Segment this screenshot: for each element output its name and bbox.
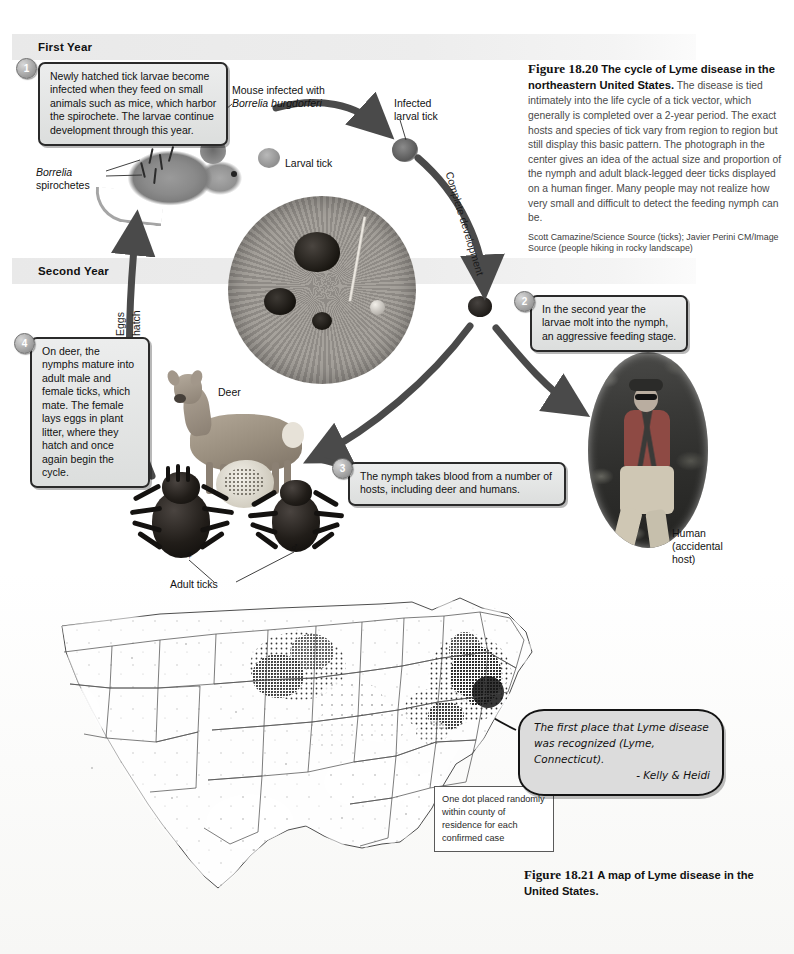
eggs-label: Eggs [114, 312, 126, 336]
borrelia-label-line2: spirochetes [36, 179, 90, 191]
annotation-line1: The first place that Lyme [534, 721, 666, 733]
borrelia-genus: Borrelia [36, 166, 72, 178]
infected-label-line1: Infected [394, 97, 431, 109]
larval-tick-glyph [258, 148, 280, 168]
mouse-tail [92, 186, 164, 226]
map-legend-note: One dot placed randomly within county of… [434, 786, 554, 852]
deer-label: Deer [218, 386, 241, 399]
human-label-line1: Human [672, 527, 706, 539]
mouse-label-species: Borrelia burgdorferi [232, 97, 322, 109]
pin-head [370, 300, 385, 315]
infected-label-line2: larval tick [394, 110, 438, 122]
figure-18-20-body: The disease is tied intimately into the … [528, 80, 781, 223]
borrelia-label: Borrelia spirochetes [36, 166, 110, 192]
callout-step-3: The nymph takes blood from a number of h… [348, 462, 566, 506]
first-year-banner: First Year [12, 34, 696, 60]
figure-18-20-caption: Figure 18.20 The cycle of Lyme disease i… [528, 60, 786, 255]
hiker-photo [588, 352, 708, 548]
mouse-label-line1: Mouse infected with [232, 84, 325, 96]
tick-scale-photo [228, 196, 416, 384]
human-label-line3: host) [672, 553, 695, 565]
pin-shaft [349, 216, 367, 301]
handwritten-annotation: The first place that Lyme disease was re… [518, 709, 724, 796]
nymph-tick-glyph [460, 290, 500, 324]
callout-step-2: In the second year the larvae molt into … [530, 295, 688, 352]
lyme-disease-map [40, 592, 560, 922]
adult-ticks-label: Adult ticks [170, 578, 218, 591]
case-dot-density [40, 592, 560, 922]
human-host-label: Human (accidental host) [672, 527, 752, 566]
callout-step-4: On deer, the nymphs mature into adult ma… [30, 337, 150, 488]
first-year-label: First Year [38, 41, 92, 53]
adult-tick-in-photo [294, 232, 340, 272]
larval-tick-in-photo [312, 312, 332, 330]
infected-larval-tick-label: Infected larval tick [394, 97, 454, 123]
step-badge-2: 2 [514, 291, 535, 312]
figure-18-20-credit: Scott Camazine/Science Source (ticks); J… [528, 232, 786, 255]
infected-larval-tick-glyph [392, 138, 418, 162]
step-badge-4: 4 [14, 333, 35, 354]
nymph-tick-in-photo [264, 288, 296, 315]
larval-tick-label: Larval tick [285, 157, 332, 170]
male-symbol: ♂ [290, 540, 299, 554]
female-symbol: ♀ [185, 548, 194, 562]
step-badge-1: 1 [16, 58, 37, 79]
step-badge-3: 3 [332, 458, 353, 479]
human-label-line2: (accidental [672, 540, 723, 552]
figure-18-21-caption: Figure 18.21 A map of Lyme disease in th… [524, 866, 764, 900]
mouse-eye [231, 171, 237, 177]
annotation-signature: - Kelly & Heidi [534, 768, 710, 784]
textbook-page: First Year Second Year [0, 0, 794, 954]
us-map-svg [40, 592, 560, 922]
second-year-label: Second Year [38, 265, 109, 277]
callout-step-1: Newly hatched tick larvae become infecte… [38, 62, 228, 146]
figure-18-21-number: Figure 18.21 [524, 867, 594, 882]
hatch-label: hatch [130, 310, 142, 336]
figure-18-20-number: Figure 18.20 [528, 61, 598, 76]
mouse-label: Mouse infected with Borrelia burgdorferi [232, 84, 352, 110]
